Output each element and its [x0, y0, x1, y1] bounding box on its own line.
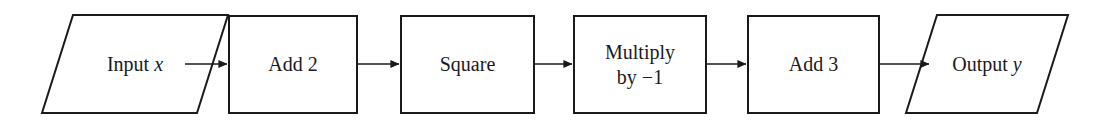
node-square-shape: [401, 16, 534, 113]
node-add2-shape: [229, 16, 357, 113]
flowchart-diagram: Input x Add 2 Square Multiply by −1 Add …: [0, 0, 1119, 127]
node-output-shape: [906, 15, 1068, 113]
node-multiply-shape: [574, 16, 706, 113]
flowchart-canvas: [0, 0, 1119, 127]
node-add3-shape: [748, 16, 879, 113]
